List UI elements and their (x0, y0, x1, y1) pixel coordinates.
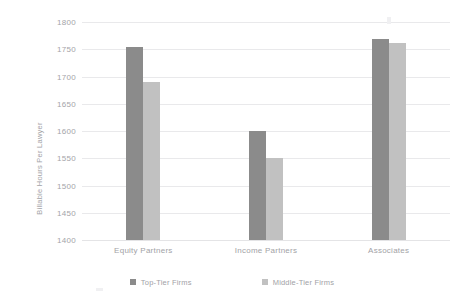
bar[interactable] (389, 43, 406, 240)
y-axis-tick-label: 1650 (36, 99, 76, 108)
y-axis-tick-label: 1450 (36, 208, 76, 217)
bar-chart: Billable Hours Per Lawyer 18001750170016… (0, 0, 464, 301)
x-axis-tick-label: Income Partners (196, 246, 336, 255)
bar[interactable] (143, 82, 160, 240)
chart-legend: Top-Tier FirmsMiddle-Tier Firms (0, 275, 464, 289)
legend-entry[interactable]: Top-Tier Firms (130, 278, 192, 287)
x-axis-tick-label: Associates (319, 246, 459, 255)
x-axis-tick-label: Equity Partners (73, 246, 213, 255)
bar-group (372, 22, 406, 240)
bar[interactable] (249, 131, 266, 240)
y-axis-tick-label: 1800 (36, 18, 76, 27)
bar-group (249, 22, 283, 240)
y-axis-tick-label: 1400 (36, 236, 76, 245)
legend-label: Middle-Tier Firms (273, 278, 334, 287)
bar[interactable] (372, 39, 389, 240)
bar[interactable] (126, 47, 143, 240)
legend-label: Top-Tier Firms (141, 278, 192, 287)
axis-baseline (82, 240, 450, 241)
legend-entry[interactable]: Middle-Tier Firms (262, 278, 334, 287)
y-axis-tick-label: 1700 (36, 72, 76, 81)
plot-area (82, 22, 450, 240)
legend-swatch-icon (130, 279, 136, 285)
y-axis-tick-label: 1750 (36, 45, 76, 54)
x-axis-tick-labels: Equity PartnersIncome PartnersAssociates (82, 246, 450, 262)
y-axis-tick-label: 1500 (36, 181, 76, 190)
y-axis-tick-label: 1600 (36, 127, 76, 136)
y-axis-tick-labels: 180017501700165016001550150014501400 (0, 0, 76, 301)
y-axis-tick-label: 1550 (36, 154, 76, 163)
bar-group (126, 22, 160, 240)
legend-swatch-icon (262, 279, 268, 285)
bar[interactable] (266, 158, 283, 240)
